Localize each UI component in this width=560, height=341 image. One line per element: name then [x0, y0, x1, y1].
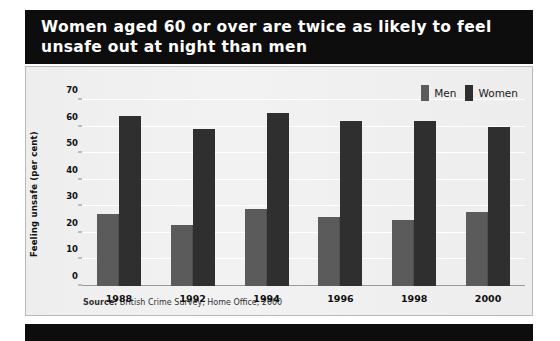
- title-banner: Women aged 60 or over are twice as likel…: [25, 10, 533, 64]
- bottom-strip: [25, 324, 533, 341]
- x-axis-tick-label: 1994: [253, 293, 279, 304]
- y-axis-title-label: Feeling unsafe (per cent): [29, 119, 39, 269]
- plot-area: 010203040506070 198819921994199619982000: [82, 100, 525, 286]
- legend-item-men: Men: [421, 85, 456, 101]
- bar-group: 1996: [303, 100, 377, 286]
- x-axis-tick-label: 1996: [327, 293, 353, 304]
- bar-men-1994: [245, 209, 267, 286]
- chart-legend: Men Women: [421, 85, 518, 101]
- legend-item-women: Women: [465, 85, 518, 101]
- y-axis-title: Feeling unsafe (per cent): [29, 0, 39, 117]
- y-axis-tick-label: 0: [72, 271, 78, 281]
- bar-group: 1998: [377, 100, 451, 286]
- bar-group: 1994: [230, 100, 304, 286]
- x-axis-tick-label: 1998: [401, 293, 427, 304]
- y-axis-tick-label: 30: [66, 191, 78, 201]
- page-title: Women aged 60 or over are twice as likel…: [41, 17, 517, 58]
- legend-swatch-men: [421, 85, 429, 101]
- bar-men-1992: [171, 225, 193, 286]
- x-axis-tick-label: 2000: [475, 293, 501, 304]
- bar-groups: 198819921994199619982000: [82, 100, 525, 286]
- legend-swatch-women: [465, 85, 473, 101]
- bar-men-1988: [97, 214, 119, 286]
- y-axis-tick-label: 10: [66, 244, 78, 254]
- bar-group: 2000: [451, 100, 525, 286]
- x-axis-tick-label: 1992: [180, 293, 206, 304]
- x-axis-tick-label: 1988: [106, 293, 132, 304]
- bar-men-1996: [318, 217, 340, 286]
- chart-panel: Men Women Feeling unsafe (per cent) 0102…: [25, 66, 533, 316]
- y-axis-tick-label: 20: [66, 218, 78, 228]
- bar-men-1998: [392, 220, 414, 286]
- bar-women-1994: [267, 113, 289, 286]
- bar-group: 1992: [156, 100, 230, 286]
- bar-women-1996: [340, 121, 362, 286]
- bar-group: 1988: [82, 100, 156, 286]
- y-axis-tick-label: 60: [66, 112, 78, 122]
- bar-women-1992: [193, 129, 215, 286]
- y-axis-tick-label: 40: [66, 165, 78, 175]
- bar-women-2000: [488, 127, 510, 286]
- y-axis-tick-label: 50: [66, 138, 78, 148]
- bar-women-1998: [414, 121, 436, 286]
- y-axis-tick-label: 70: [66, 85, 78, 95]
- legend-label-men: Men: [434, 87, 456, 99]
- bar-women-1988: [119, 116, 141, 286]
- bar-men-2000: [466, 212, 488, 286]
- legend-label-women: Women: [478, 87, 518, 99]
